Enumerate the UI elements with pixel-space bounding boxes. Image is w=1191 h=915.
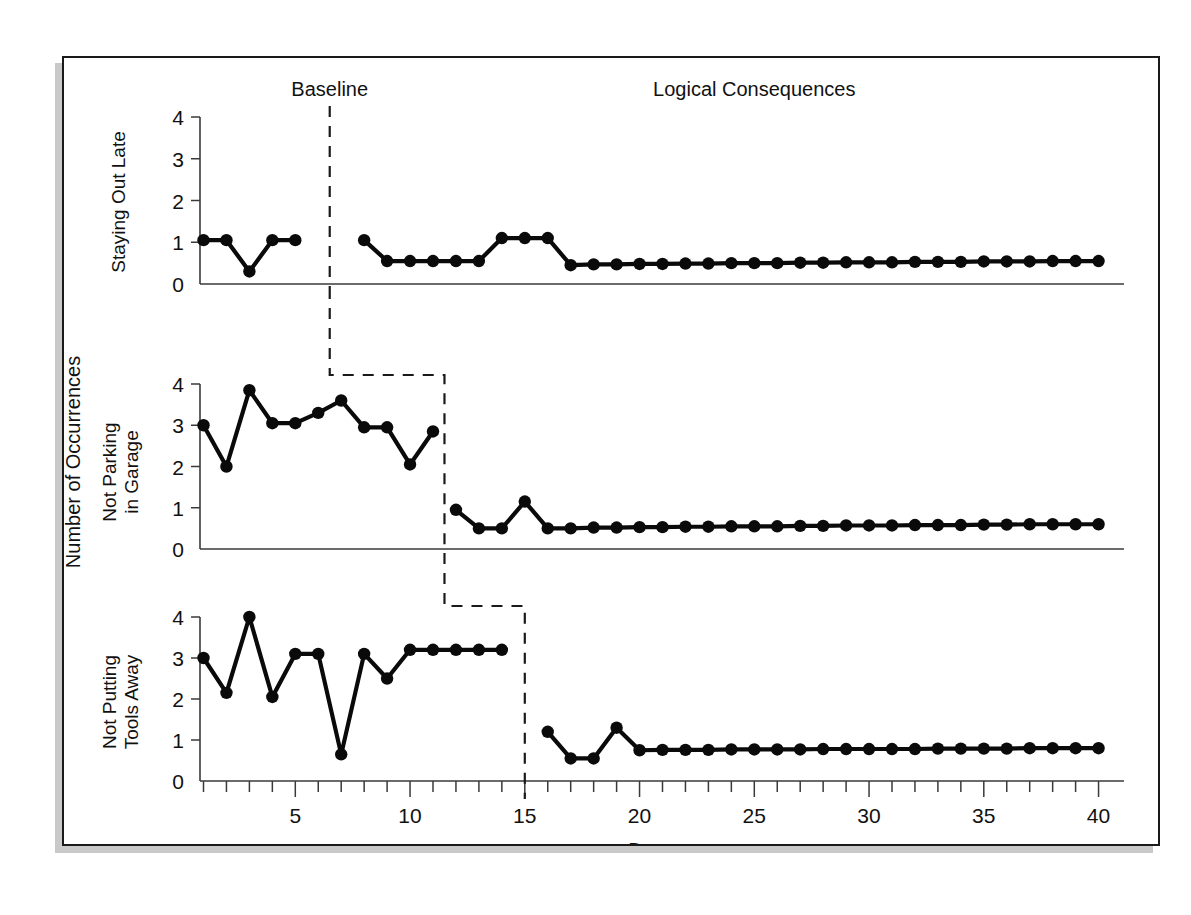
panel-3-baseline-point (289, 648, 301, 660)
panel-2-treatment-point (496, 522, 508, 534)
panel-2-y-tick-label: 4 (172, 373, 184, 396)
panel-3-baseline-point (220, 687, 232, 699)
panel-3-treatment-point (633, 744, 645, 756)
x-tick-label: 5 (289, 804, 301, 827)
panel-2-treatment-point (633, 521, 645, 533)
panel-1-treatment-point (702, 257, 714, 269)
panel-2-treatment-point (565, 522, 577, 534)
panel-1-baseline-point (243, 265, 255, 277)
panel-3-y-tick-label: 3 (172, 647, 184, 670)
phase-label-treatment: Logical Consequences (653, 78, 855, 100)
panel-3-treatment-point (1046, 742, 1058, 754)
panel-1-treatment-point (679, 257, 691, 269)
panel-1-treatment-point (748, 257, 760, 269)
panel-1-treatment-point (1092, 255, 1104, 267)
x-tick-label: 15 (513, 804, 536, 827)
panel-1-treatment-point (817, 257, 829, 269)
panel-2-treatment-point (1001, 518, 1013, 530)
panel-3-treatment-point (1092, 742, 1104, 754)
panel-2-y-tick-label: 2 (172, 456, 184, 479)
panel-2-treatment-point (450, 504, 462, 516)
panel-3-treatment-point (1024, 742, 1036, 754)
panel-3-treatment-point (1069, 742, 1081, 754)
panel-3-treatment-point (794, 743, 806, 755)
panel-1-treatment-point (725, 257, 737, 269)
panel-1-treatment-point (863, 256, 875, 268)
panel-1-treatment-point (932, 256, 944, 268)
panel-2-treatment-point (587, 521, 599, 533)
panel-2-treatment-point (542, 522, 554, 534)
panel-3-y-tick-label: 2 (172, 688, 184, 711)
panel-1-treatment-point (978, 255, 990, 267)
x-axis-title: Days (628, 839, 674, 844)
panel-1-treatment-point (909, 256, 921, 268)
panel-1-treatment-point (565, 259, 577, 271)
panel-1-treatment-point (840, 256, 852, 268)
panel-2-treatment-point (679, 521, 691, 533)
panel-3-treatment-point (771, 743, 783, 755)
panel-1-treatment-point (633, 258, 645, 270)
panel-2-treatment-point (955, 519, 967, 531)
panel-2-baseline-point (312, 407, 324, 419)
panel-3-treatment-point (978, 742, 990, 754)
panel-3-baseline-point (427, 644, 439, 656)
panel-2-treatment-point (473, 522, 485, 534)
panel-1-treatment-point (496, 232, 508, 244)
panel-2-y-tick-label: 0 (172, 538, 184, 561)
phase-change-line (330, 106, 525, 799)
panel-2-treatment-point (519, 495, 531, 507)
x-tick-label: 10 (398, 804, 421, 827)
panel-2-treatment-point (1069, 518, 1081, 530)
panel-2-treatment-point (863, 519, 875, 531)
panel-2-treatment-point (817, 520, 829, 532)
panel-3-y-tick-label: 0 (172, 770, 184, 793)
panel-2-treatment-point (725, 520, 737, 532)
panel-3-treatment-point (932, 742, 944, 754)
panel-3-baseline-point (358, 648, 370, 660)
panel-2-treatment-point (909, 519, 921, 531)
panel-3-treatment-point (610, 722, 622, 734)
panel-2-baseline-point (335, 394, 347, 406)
panel-2-baseline-point (358, 421, 370, 433)
panel-1-treatment-point (1001, 255, 1013, 267)
panel-1-y-tick-label: 2 (172, 190, 184, 213)
panel-1-baseline-point (197, 234, 209, 246)
panel-2-treatment-point (1046, 518, 1058, 530)
panel-3-treatment-point (817, 743, 829, 755)
panel-3-treatment-point (565, 752, 577, 764)
panel-1-y-tick-label: 4 (172, 106, 184, 129)
panel-2-treatment-point (656, 521, 668, 533)
panel-3-treatment-point (955, 742, 967, 754)
panel-3-treatment-point (863, 743, 875, 755)
panel-1-treatment-point (587, 258, 599, 270)
panel-3-treatment-point (587, 752, 599, 764)
panel-1-treatment-point (771, 257, 783, 269)
panel-2-baseline-point (243, 384, 255, 396)
panel-2-treatment-point (610, 521, 622, 533)
panel-1-treatment-point (450, 255, 462, 267)
panel-1-treatment-point (519, 232, 531, 244)
panel-2-treatment-point (702, 521, 714, 533)
x-tick-label: 25 (743, 804, 766, 827)
panel-3-treatment-point (679, 744, 691, 756)
panel-2-treatment-point (771, 520, 783, 532)
panel-1-treatment-point (404, 255, 416, 267)
panel-3-treatment-point (886, 743, 898, 755)
x-tick-label: 40 (1087, 804, 1110, 827)
panel-3-label: Tools Away (121, 654, 142, 749)
panel-2-y-tick-label: 3 (172, 414, 184, 437)
panel-1-treatment-point (1046, 255, 1058, 267)
panel-2-treatment-point (978, 518, 990, 530)
panel-2-treatment-point (1092, 518, 1104, 530)
y-axis-title: Number of Occurrences (64, 356, 84, 568)
panel-3-baseline-point (335, 748, 347, 760)
panel-1-treatment-point (1024, 255, 1036, 267)
panel-1-treatment-point (381, 255, 393, 267)
panel-2-treatment-point (748, 520, 760, 532)
panel-1-y-tick-label: 0 (172, 273, 184, 296)
panel-3-baseline-point (312, 648, 324, 660)
panel-3-label: Not Putting (99, 655, 120, 749)
panel-2-treatment-point (932, 519, 944, 531)
panel-2-baseline-point (197, 419, 209, 431)
panel-2-baseline-point (381, 421, 393, 433)
